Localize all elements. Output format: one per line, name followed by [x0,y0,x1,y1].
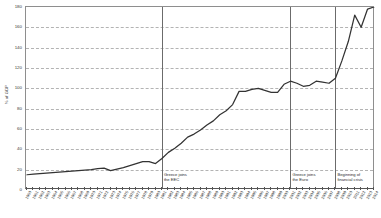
y-tick-120: 120 [8,65,22,70]
y-tick-60: 60 [8,126,22,131]
x-tickmark [257,187,258,190]
x-tickmark [277,187,278,190]
x-tickmark [219,187,220,190]
x-tickmark [65,187,66,190]
event-label-2001: Greece joins the Euro [292,172,315,182]
debt-to-gdp-line-chart: % of GDP 020406080100120140160180 Greece… [0,0,381,218]
plot-area: Greece joins the EECGreece joins the Eur… [25,6,374,189]
x-tickmark [244,187,245,190]
y-tick-20: 20 [8,166,22,171]
event-label-2008: Beginning of financial crisis [337,172,362,182]
x-tickmark [187,187,188,190]
series-path-greece-government-debt [27,7,374,175]
x-tickmark [129,187,130,190]
x-tickmark [142,187,143,190]
y-tick-140: 140 [8,44,22,49]
x-tickmark [334,187,335,190]
x-tickmark [212,187,213,190]
y-tick-80: 80 [8,105,22,110]
event-label-1981: Greece joins the EEC [164,172,187,182]
x-tickmark [39,187,40,190]
y-tick-40: 40 [8,146,22,151]
x-tickmark [302,187,303,190]
x-tickmark [122,187,123,190]
x-tickmark [84,187,85,190]
x-tickmark [264,187,265,190]
x-tickmark [232,187,233,190]
y-tick-0: 0 [8,187,22,192]
x-tickmark [341,187,342,190]
x-tickmark [289,187,290,190]
x-tickmark [155,187,156,190]
y-tick-160: 160 [8,24,22,29]
y-tick-100: 100 [8,85,22,90]
x-tickmark [354,187,355,190]
y-tick-180: 180 [8,4,22,9]
x-tickmark [174,187,175,190]
x-tickmark [367,187,368,190]
x-tickmark [97,187,98,190]
x-tickmark [200,187,201,190]
x-axis-tick-labels: 1960196119621963196419651966196719681969… [25,190,374,218]
x-tickmark [77,187,78,190]
x-tickmark [52,187,53,190]
series-line [26,7,375,190]
x-tickmark [322,187,323,190]
x-tickmark [309,187,310,190]
x-tickmark [167,187,168,190]
x-tickmark [110,187,111,190]
x-tickmark [32,187,33,190]
